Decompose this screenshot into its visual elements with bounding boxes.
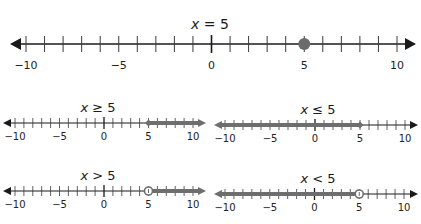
inequality-number-lines-diagram <box>0 0 421 224</box>
tick-label: −10 <box>4 131 25 142</box>
tick-label: −5 <box>262 202 277 213</box>
tick-label: 5 <box>357 133 363 144</box>
tick-label: 0 <box>101 199 107 210</box>
right-arrow-icon <box>198 187 206 195</box>
tick-label: −5 <box>52 131 67 142</box>
tick-label: 10 <box>399 133 412 144</box>
left-arrow-icon <box>3 119 11 127</box>
variable-symbol: x <box>80 168 88 183</box>
inequality-title: x = 5 <box>191 16 229 32</box>
tick-label: −5 <box>263 133 278 144</box>
boundary-value: 5 <box>327 102 335 117</box>
left-arrow-icon <box>214 190 222 198</box>
tick-label: −10 <box>214 133 235 144</box>
tick-label: 5 <box>356 202 362 213</box>
inequality-title: x ≥ 5 <box>80 100 115 115</box>
closed-point-marker <box>145 120 152 127</box>
tick-label: 10 <box>187 131 200 142</box>
boundary-value: 5 <box>220 16 229 32</box>
boundary-value: 5 <box>327 171 335 186</box>
left-arrow-icon <box>10 38 21 50</box>
number-lines-canvas <box>0 0 421 224</box>
inequality-title: x ≤ 5 <box>300 102 335 117</box>
tick-label: 10 <box>187 199 200 210</box>
tick-label: −10 <box>214 202 235 213</box>
relation-symbol: ≥ <box>88 100 107 115</box>
tick-label: 10 <box>390 59 404 72</box>
tick-label: −5 <box>52 199 67 210</box>
relation-symbol: < <box>308 171 327 186</box>
tick-label: −10 <box>14 59 37 72</box>
left-arrow-icon <box>3 187 11 195</box>
inequality-title: x > 5 <box>80 168 115 183</box>
right-arrow-icon <box>410 190 418 198</box>
closed-point-marker <box>298 38 310 50</box>
tick-label: −5 <box>111 59 127 72</box>
variable-symbol: x <box>300 102 308 117</box>
variable-symbol: x <box>300 171 308 186</box>
closed-point-marker <box>357 122 364 129</box>
tick-label: 0 <box>208 59 215 72</box>
tick-label: 5 <box>301 59 308 72</box>
tick-label: 5 <box>145 131 151 142</box>
tick-label: 10 <box>398 202 411 213</box>
tick-label: 5 <box>145 199 151 210</box>
tick-label: 0 <box>101 131 107 142</box>
left-arrow-icon <box>214 121 222 129</box>
boundary-value: 5 <box>107 100 115 115</box>
right-arrow-icon <box>410 121 418 129</box>
inequality-title: x < 5 <box>300 171 335 186</box>
boundary-value: 5 <box>107 168 115 183</box>
tick-label: 0 <box>312 133 318 144</box>
relation-symbol: > <box>88 168 107 183</box>
variable-symbol: x <box>80 100 88 115</box>
tick-label: −10 <box>4 199 25 210</box>
right-arrow-icon <box>405 38 416 50</box>
right-arrow-icon <box>198 119 206 127</box>
tick-label: 0 <box>311 202 317 213</box>
relation-symbol: ≤ <box>308 102 327 117</box>
relation-symbol: = <box>199 16 220 32</box>
